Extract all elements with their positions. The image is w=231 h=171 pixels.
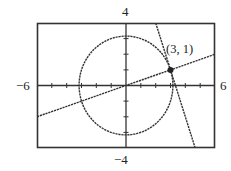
x-min-label: −6 — [16, 79, 30, 92]
intersection-point-marker — [168, 67, 174, 73]
y-max-label: 4 — [122, 5, 129, 18]
graph-canvas — [0, 0, 231, 171]
y-min-label: −4 — [114, 153, 128, 166]
x-max-label: 6 — [220, 79, 227, 92]
point-label: (3, 1) — [166, 43, 193, 56]
